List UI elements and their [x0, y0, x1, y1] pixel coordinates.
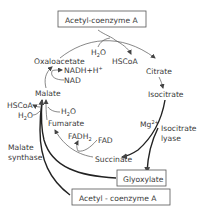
- malate-synthase-label-line2: synthase: [8, 153, 43, 162]
- hscoa-output-arrow: [115, 40, 131, 54]
- hscoa-top-label: HSCoA: [112, 57, 138, 66]
- isocitrate-label: Isocitrate: [148, 90, 184, 99]
- oxaloacetate-label: Oxaloacetate: [34, 57, 85, 66]
- acetyl-coa-top-box: Acetyl-coenzyme A: [58, 11, 146, 27]
- nad-reaction-arrow: [52, 70, 64, 80]
- malate-synthase-label-line1: Malate: [8, 143, 34, 152]
- nadh-label: NADH+H+: [64, 65, 103, 75]
- isocitrate-lyase-label-line2: lyase: [161, 134, 181, 143]
- fumarate-label: Fumarate: [48, 119, 85, 128]
- h2o-fumarase-line: [48, 107, 60, 112]
- malate-to-oxaloacetate-arrow: [45, 67, 52, 88]
- h2o-left-label: H2O: [18, 111, 33, 121]
- fadh2-label: FADH2: [68, 132, 92, 142]
- glyoxylate-label: Glyoxylate: [123, 175, 164, 184]
- citrate-label: Citrate: [146, 67, 172, 76]
- fumarate-to-malate-arrow: [46, 100, 47, 120]
- glyoxylate-box: Glyoxylate: [117, 170, 166, 186]
- isocitrate-to-glyoxylate-arrow: [147, 128, 158, 172]
- hscoa-left-label: HSCoA: [7, 101, 33, 110]
- fad-label: FAD: [98, 136, 113, 145]
- nad-label: NAD: [64, 76, 81, 85]
- citrate-synthase-arc: [60, 41, 155, 58]
- h2o-input-line: [98, 38, 110, 47]
- acetyl-coa-bottom-label: Acetyl - coenzyme A: [79, 194, 157, 203]
- h2o-left-line: [33, 111, 40, 115]
- glyoxylate-cycle-diagram: Acetyl-coenzyme A H2O HSCoA Oxaloacetate…: [0, 0, 207, 219]
- h2o-fumarase-label: H2O: [61, 107, 76, 117]
- hscoa-left-arrow: [33, 105, 40, 107]
- fad-reaction-arrow: [77, 140, 97, 151]
- acetyl-coa-top-label: Acetyl-coenzyme A: [65, 16, 138, 25]
- h2o-top-label: H2O: [91, 48, 106, 58]
- isocitrate-lyase-label-line1: Isocitrate: [161, 124, 197, 133]
- acetyl-coa-input-line: [98, 30, 115, 40]
- acetyl-coa-bottom-box: Acetyl - coenzyme A: [72, 189, 170, 205]
- citrate-to-isocitrate-arrow: [159, 77, 163, 88]
- malate-label: Malate: [35, 89, 61, 98]
